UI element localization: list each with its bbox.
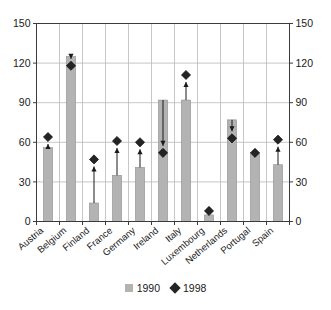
y-axis-label-right: 150 <box>296 17 314 29</box>
bar-portugal <box>250 153 259 222</box>
x-axis-label-finland: Finland <box>60 225 91 253</box>
marker-italy <box>181 70 190 79</box>
y-axis-label-left: 90 <box>19 96 31 108</box>
marker-finland <box>89 155 98 164</box>
y-axis-label-left: 30 <box>19 176 31 188</box>
diamond-swatch-icon <box>169 283 180 294</box>
bar-italy <box>181 100 190 221</box>
change-arrow-finland <box>91 166 96 203</box>
y-axis-label-left: 120 <box>13 57 31 69</box>
bar-germany <box>135 167 144 221</box>
chart-legend: 1990 1998 <box>0 283 331 294</box>
bar-chart-plot: 00303060609090120120150150AustriaBelgium… <box>0 0 331 310</box>
bar-france <box>112 175 121 221</box>
change-arrow-italy <box>183 82 188 100</box>
y-axis-label-right: 0 <box>296 215 302 227</box>
change-arrow-spain <box>275 147 280 165</box>
bar-belgium <box>66 57 75 222</box>
legend-label-1990: 1990 <box>137 283 160 294</box>
y-axis-label-right: 30 <box>296 176 308 188</box>
bar-spain <box>273 165 282 222</box>
y-axis-label-right: 120 <box>296 57 314 69</box>
marker-germany <box>135 138 144 147</box>
change-arrow-austria <box>45 144 50 149</box>
marker-france <box>112 136 121 145</box>
marker-austria <box>43 132 52 141</box>
y-axis-label-right: 90 <box>296 96 308 108</box>
y-axis-label-left: 150 <box>13 17 31 29</box>
y-axis-label-right: 60 <box>296 136 308 148</box>
y-axis-label-left: 60 <box>19 136 31 148</box>
legend-label-1998: 1998 <box>183 283 206 294</box>
bar-austria <box>43 148 52 222</box>
change-arrow-france <box>114 148 119 175</box>
change-arrow-germany <box>137 149 142 167</box>
marker-luxembourg <box>204 206 213 215</box>
x-axis-label-ireland: Ireland <box>131 225 160 252</box>
x-axis-label-spain: Spain <box>250 225 276 249</box>
square-swatch-icon <box>125 284 133 292</box>
bar-finland <box>89 203 98 221</box>
y-axis-label-left: 0 <box>25 215 31 227</box>
chart-container: 00303060609090120120150150AustriaBelgium… <box>0 0 331 310</box>
legend-item-1990: 1990 <box>125 283 160 294</box>
legend-item-1998: 1998 <box>171 283 206 294</box>
marker-spain <box>273 135 282 144</box>
